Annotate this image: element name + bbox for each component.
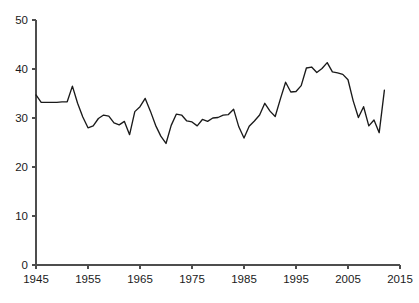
data-line — [36, 63, 384, 144]
x-tick-label: 2005 — [335, 273, 361, 285]
x-tick-label: 1975 — [179, 273, 205, 285]
x-ticks-group: 19451955196519751985199520052015 — [23, 265, 413, 285]
chart-container: 01020304050 1945195519651975198519952005… — [0, 0, 419, 303]
y-tick-label: 40 — [15, 63, 28, 75]
y-tick-label: 50 — [15, 14, 28, 26]
y-tick-label: 30 — [15, 112, 28, 124]
chart-plot-area: 01020304050 1945195519651975198519952005… — [0, 0, 419, 303]
y-tick-label: 10 — [15, 210, 28, 222]
series-group — [36, 63, 384, 144]
x-tick-label: 1965 — [127, 273, 153, 285]
y-tick-label: 0 — [22, 259, 28, 271]
axes-group — [36, 20, 400, 265]
x-tick-label: 1995 — [283, 273, 309, 285]
y-ticks-group: 01020304050 — [15, 14, 36, 271]
x-tick-label: 1945 — [23, 273, 49, 285]
x-tick-label: 1955 — [75, 273, 101, 285]
x-tick-label: 1985 — [231, 273, 257, 285]
x-tick-label: 2015 — [387, 273, 413, 285]
y-tick-label: 20 — [15, 161, 28, 173]
